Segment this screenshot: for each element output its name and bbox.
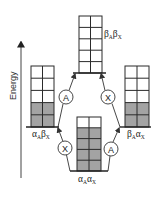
transition-upper-right-X: X: [101, 76, 120, 128]
state-bottom-aAaX: αAαX: [70, 117, 108, 185]
state-stack: [79, 16, 102, 73]
state-label: αAαX: [78, 174, 96, 185]
state-left-aAbX: αAβX: [26, 66, 59, 140]
transition-label: A: [63, 93, 69, 103]
transition-lower-left-X: X: [58, 130, 72, 172]
state-right-bAaX: βAαX: [120, 66, 151, 140]
state-stack: [125, 66, 149, 127]
transition-upper-left-A: A: [58, 76, 75, 128]
transition-label: A: [108, 145, 114, 155]
energy-axis: Energy: [8, 44, 21, 178]
state-label: βAαX: [127, 129, 145, 140]
transition-label: X: [62, 144, 68, 154]
energy-axis-label: Energy: [8, 71, 18, 100]
state-stack: [77, 117, 101, 171]
state-label: βAβX: [104, 29, 122, 40]
transition-lower-right-A: A: [104, 130, 119, 172]
state-label: αAβX: [32, 129, 50, 140]
energy-level-diagram: Energy βAβX αAβX: [0, 0, 160, 197]
state-top-bAbX: βAβX: [73, 16, 122, 73]
state-stack: [31, 66, 54, 127]
transition-label: X: [105, 93, 111, 103]
